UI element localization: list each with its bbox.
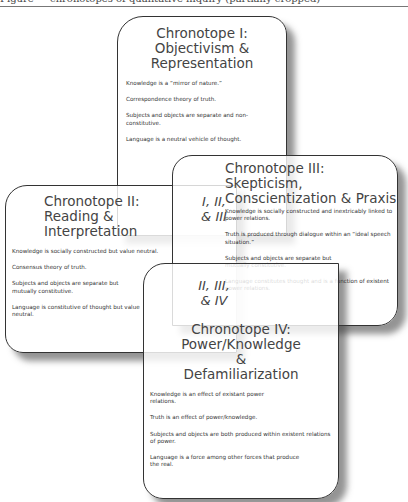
statement: Language is constitutive of thought but … (12, 304, 142, 318)
statement: Subjects and objects are separate but mu… (12, 280, 142, 294)
title-line: Chronotope I: (118, 26, 286, 41)
overlap-line: & III (184, 209, 244, 224)
page-header-rule: Figure — chronotopes of qualitative inqu… (0, 0, 408, 7)
chronotope-1-statements: Knowledge is a “mirror of nature.” Corre… (118, 80, 286, 143)
statement: Knowledge is socially constructed and in… (225, 208, 393, 222)
title-line: Skepticism, (225, 176, 397, 191)
page-header-text: Figure — chronotopes of qualitative inqu… (0, 0, 408, 4)
title-line: Interpretation (44, 224, 164, 239)
statement: Truth is an effect of power/knowledge. (150, 414, 332, 421)
overlap-label-1-2-3: I, II, & III (184, 194, 244, 224)
overlap-line: & IV (184, 293, 244, 308)
title-line: & (144, 352, 338, 367)
title-line: Conscientization & Praxis (225, 191, 397, 206)
statement: Truth is produced through dialogue withi… (225, 231, 393, 245)
overlap-line: II, III, (184, 278, 244, 293)
statement: Subjects and objects are both produced w… (150, 431, 332, 445)
statement: Language is a force among other forces t… (150, 454, 300, 468)
title-line: Chronotope IV: (144, 322, 338, 337)
title-line: Defamiliarization (144, 367, 338, 382)
chronotope-2-title: Chronotope II: Reading & Interpretation (6, 186, 164, 239)
statement: Knowledge is a “mirror of nature.” (126, 80, 278, 87)
title-line: Objectivism & (118, 41, 286, 56)
title-line: Reading & (44, 209, 164, 224)
statement: Knowledge is an effect of existant power… (150, 391, 290, 405)
title-line: Chronotope III: (225, 161, 397, 176)
overlap-line: I, II, (184, 194, 244, 209)
chronotope-1-title: Chronotope I: Objectivism & Representati… (118, 17, 286, 71)
statement: Language is a neutral vehicle of thought… (126, 136, 278, 143)
statement: Correspondence theory of truth. (126, 96, 278, 103)
title-line: Representation (118, 56, 286, 71)
statement: Subjects and objects are separate and no… (126, 112, 278, 126)
chronotope-4-statements: Knowledge is an effect of existant power… (144, 391, 338, 468)
overlap-label-2-3-4: II, III, & IV (184, 278, 244, 308)
title-line: Chronotope II: (44, 194, 164, 209)
title-line: Power/Knowledge (144, 337, 338, 352)
